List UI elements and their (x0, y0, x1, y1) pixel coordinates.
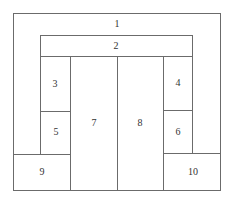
label-region-2: 2 (114, 41, 119, 51)
label-region-1: 1 (115, 19, 120, 29)
label-region-5: 5 (54, 127, 59, 137)
label-region-8: 8 (138, 118, 143, 128)
label-region-10: 10 (188, 167, 198, 177)
label-region-7: 7 (92, 118, 97, 128)
label-region-9: 9 (40, 167, 45, 177)
label-region-4: 4 (176, 78, 181, 88)
label-region-6: 6 (176, 127, 181, 137)
label-region-3: 3 (53, 79, 58, 89)
